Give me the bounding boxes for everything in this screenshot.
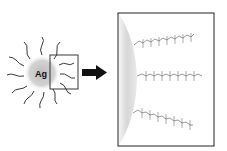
silver-nanoparticle: Ag [7,37,75,108]
diagram-canvas: Ag [0,0,227,151]
magnified-panel [118,13,214,146]
particle-label: Ag [35,69,47,79]
right-arrow-icon [82,65,107,80]
